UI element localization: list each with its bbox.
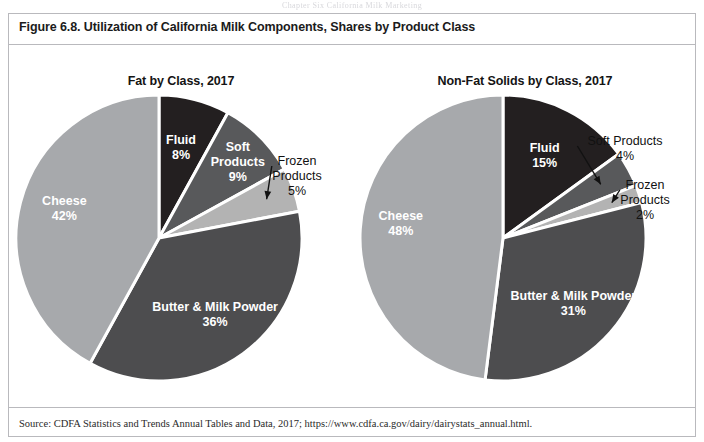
pie-chart-nonfat-solids-by-class: Fluid15%Soft Products4%FrozenProducts2%B…: [353, 90, 697, 402]
figure-box: Figure 6.8. Utilization of California Mi…: [8, 13, 696, 437]
pie-chart-fat-by-class: Fluid8%SoftProducts9%FrozenProducts5%But…: [9, 90, 353, 402]
title-divider: [9, 44, 695, 45]
pie-slice: [360, 95, 503, 380]
pie-slice-label: Fluid15%: [530, 141, 560, 170]
chart-panel-fat-by-class: Fat by Class, 2017 Fluid8%SoftProducts9%…: [9, 46, 353, 406]
source-divider: [9, 407, 695, 408]
chart-panel-nonfat-solids-by-class: Non-Fat Solids by Class, 2017 Fluid15%So…: [353, 46, 697, 406]
source-note: Source: CDFA Statistics and Trends Annua…: [19, 418, 532, 429]
chart-title-right: Non-Fat Solids by Class, 2017: [353, 74, 697, 88]
running-head: Chapter Six California Milk Marketing: [0, 0, 704, 12]
chart-title-left: Fat by Class, 2017: [9, 74, 353, 88]
figure-title: Figure 6.8. Utilization of California Mi…: [19, 20, 475, 34]
